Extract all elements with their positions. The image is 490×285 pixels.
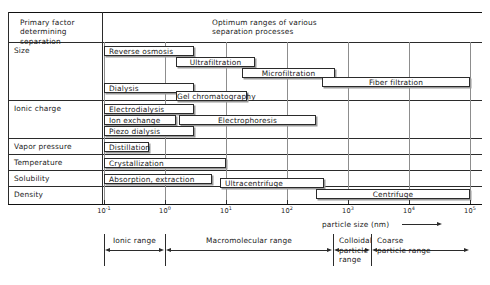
range-arrow-right-1	[327, 248, 332, 252]
row-label-temperature: Temperature	[14, 158, 62, 167]
bar-label: Crystallization	[109, 159, 164, 169]
range-arrow-left-0	[105, 248, 110, 252]
bar-piezo-dialysis: Piezo dialysis	[104, 126, 194, 136]
bar-electrodialysis: Electrodialysis	[104, 104, 194, 114]
bar-label: Ultrafiltration	[177, 58, 254, 68]
header-left-label: Primary factor determining separation	[20, 18, 106, 46]
bar-gel-chromatography: Gel chromatography	[176, 91, 247, 101]
bar-label: Centrifuge	[317, 190, 469, 200]
axis-tick-label-5: 104	[403, 207, 415, 215]
bar-ion-exchange: Ion exchange	[104, 115, 176, 125]
axis-title: particle size (nm)	[322, 220, 389, 229]
axis-tick-2	[226, 200, 227, 204]
axis-tick-label-1: 100	[159, 207, 171, 215]
bar-label: Ion exchange	[109, 116, 160, 126]
bar-crystallization: Crystallization	[104, 158, 226, 168]
bar-absorption-extraction: Absorption, extraction	[104, 174, 212, 184]
row-separator-2	[8, 138, 482, 139]
row-label-solubility: Solubility	[14, 174, 50, 183]
axis-tick-4	[348, 200, 349, 204]
row-separator-4	[8, 170, 482, 171]
axis-tick-label-0: 10-1	[97, 207, 111, 215]
bar-label: Dialysis	[109, 84, 139, 94]
range-arrow-line-1	[170, 250, 328, 251]
row-label-density: Density	[14, 190, 43, 199]
gridline-4	[409, 42, 410, 204]
axis-tick-label-6: 105	[464, 207, 476, 215]
axis-tick-label-2: 101	[220, 207, 232, 215]
header-right-note: Optimum ranges of various separation pro…	[212, 18, 452, 37]
axis-tick-label-3: 102	[281, 207, 293, 215]
axis-tick-0	[104, 200, 105, 204]
bar-distillation: Distillation	[104, 142, 149, 152]
bar-label: Distillation	[109, 143, 150, 153]
axis-tick-5	[409, 200, 410, 204]
bar-label: Reverse osmosis	[109, 47, 173, 57]
range-arrow-right-3	[464, 248, 469, 252]
range-label-3: Coarse particle range	[377, 236, 431, 255]
bar-electrophoresis: Electrophoresis	[179, 115, 316, 125]
bar-reverse-osmosis: Reverse osmosis	[104, 46, 194, 56]
range-label-0: Ionic range	[113, 236, 156, 246]
left-border	[8, 12, 9, 204]
bar-label: Electrophoresis	[180, 116, 315, 126]
bar-ultrafiltration: Ultrafiltration	[176, 57, 255, 67]
bar-label: Microfiltration	[243, 69, 334, 79]
axis-arrow-line	[402, 224, 438, 225]
axis-arrow-head	[437, 222, 442, 226]
range-arrow-left-1	[166, 248, 171, 252]
row-separator-3	[8, 154, 482, 155]
bar-fiber-filtration: Fiber filtration	[322, 77, 470, 87]
axis-tick-label-4: 103	[342, 207, 354, 215]
axis-tick-6	[470, 200, 471, 204]
axis-tick-3	[287, 200, 288, 204]
bar-centrifuge: Centrifuge	[316, 189, 470, 199]
bar-label: Ultracentrifuge	[225, 179, 283, 189]
bar-label: Absorption, extraction	[109, 175, 194, 185]
axis-tick-1	[165, 200, 166, 204]
top-rule	[8, 12, 482, 13]
gridline-5	[470, 42, 471, 204]
range-arrow-line-0	[109, 250, 160, 251]
range-arrow-right-0	[159, 248, 164, 252]
range-label-2: Colloidal particle range	[339, 236, 372, 265]
row-label-ionic-charge: Ionic charge	[14, 104, 61, 113]
bar-ultracentrifuge: Ultracentrifuge	[220, 178, 324, 188]
bar-label: Electrodialysis	[109, 105, 164, 115]
bar-label: Gel chromatography	[177, 92, 246, 102]
row-label-vapor-pressure: Vapor pressure	[14, 142, 72, 151]
range-label-1: Macromolecular range	[206, 236, 292, 246]
row-label-size: Size	[14, 46, 30, 55]
bar-label: Piezo dialysis	[109, 127, 160, 137]
bar-label: Fiber filtration	[323, 78, 469, 88]
separation-processes-diagram: Primary factor determining separationOpt…	[0, 0, 490, 285]
gridline-3	[348, 42, 349, 204]
